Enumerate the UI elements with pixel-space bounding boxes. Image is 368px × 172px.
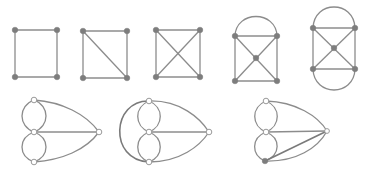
graph-3-square-x xyxy=(153,27,203,80)
graph-8-multigraph-double-edge xyxy=(255,98,330,164)
graph-5-wheel-two-arcs xyxy=(310,7,358,90)
graph-2-square-diagonal xyxy=(80,28,130,81)
graph-7-multigraph-outer-arc xyxy=(120,98,212,165)
graph-drawings xyxy=(0,0,368,172)
graph-1-square xyxy=(12,27,60,80)
graph-6-multigraph xyxy=(22,97,102,165)
graph-figure xyxy=(0,0,368,172)
graph-4-wheel-top-arc xyxy=(232,17,280,84)
